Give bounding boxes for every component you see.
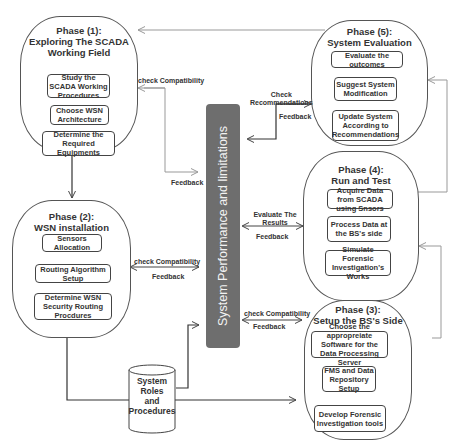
- step-choose-wsn: Choose WSN Architecture: [50, 105, 109, 125]
- step-process-data: Process Data at the BS's side: [327, 216, 391, 242]
- step-simulate-forensic: Simulate Forensic Investigation's Works: [325, 250, 391, 276]
- step-routing-algorithm: Routing Algorithm Setup: [35, 264, 111, 283]
- system-roles-database: System Roles and Procedures: [128, 364, 176, 434]
- step-develop-forensic: Develop Forensic Investigation tools: [314, 405, 386, 432]
- label-p5-check-recommendations: Check Recommendations: [250, 91, 313, 107]
- label-p3-feedback: Feedback: [253, 323, 285, 331]
- label-p2-feedback: Feedback: [152, 273, 184, 281]
- phase-3-container: Phase (3): Setup the BS's Side Choose th…: [304, 300, 412, 440]
- step-study-scada: Study the SCADA Working Procedures: [47, 74, 110, 98]
- system-performance-label: System Performance and limitations: [216, 126, 230, 326]
- label-p4-evaluate-results: Evaluate The Results: [248, 211, 302, 227]
- step-suggest-modification: Suggest System Modification: [334, 77, 397, 101]
- phase-1-container: Phase (1): Exploring The SCADA Working F…: [20, 16, 138, 152]
- phase-4-title: Phase (4): Run and Test: [304, 164, 418, 186]
- phase-5-title: Phase (5): System Evaluation: [312, 26, 427, 48]
- label-p2-check-compatibility: check Compatibility: [134, 258, 200, 266]
- step-wsn-security: Determine WSN Security Routing Procdures: [34, 293, 112, 320]
- system-performance-bar: System Performance and limitations: [206, 104, 240, 348]
- label-p5-feedback: Feedback: [279, 113, 311, 121]
- step-evaluate-outcomes: Evaluate the outcomes: [331, 51, 403, 68]
- step-choose-software: Choose the appropreiate Software for the…: [311, 331, 388, 358]
- label-p3-check-compatibility: check Compatibility: [244, 310, 310, 318]
- database-label: System Roles and Procedures: [128, 376, 176, 416]
- label-p1-check-compatibility: check Compatibility: [138, 77, 204, 85]
- label-p1-feedback: Feedback: [171, 179, 203, 187]
- step-update-system: Update System According to Recommendatio…: [332, 110, 399, 141]
- phase-2-container: Phase (2): WSN installation Sensors Allo…: [12, 200, 131, 338]
- phase-2-title: Phase (2): WSN installation: [13, 211, 130, 233]
- phase-4-container: Phase (4): Run and Test Acquire Data fro…: [303, 151, 419, 301]
- phase-5-container: Phase (5): System Evaluation Evaluate th…: [311, 20, 428, 146]
- step-determine-equipments: Determine the Required Equipments: [42, 131, 115, 156]
- step-fms-repository: FMS and Data Repository Setup: [322, 366, 376, 392]
- step-acquire-data: Acquire Data from SCADA using Snsors: [327, 189, 393, 209]
- step-sensors-allocation: Sensors Allocation: [42, 234, 102, 252]
- phase-1-title: Phase (1): Exploring The SCADA Working F…: [21, 25, 137, 58]
- label-p4-feedback: Feedback: [256, 233, 288, 241]
